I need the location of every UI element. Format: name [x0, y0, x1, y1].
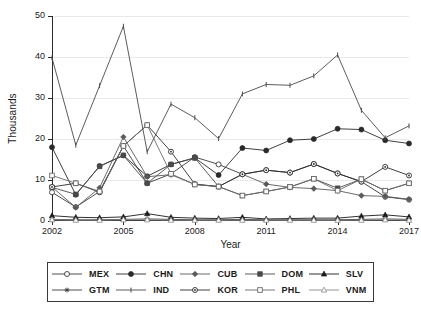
legend-item-cub[interactable]: CUB [178, 268, 242, 280]
plot-inner: 01020304050 200220052008201120142017 [52, 16, 409, 221]
y-tick-label: 50 [35, 11, 45, 20]
data-point-dot-circle [193, 288, 198, 293]
legend-label: KOR [217, 286, 238, 295]
data-point-open-square [121, 144, 126, 149]
x-tick-label: 2008 [185, 227, 205, 236]
data-point-open-square [335, 188, 340, 193]
data-point-open-circle [65, 272, 70, 277]
data-point-open-square [264, 189, 269, 194]
data-point-filled-square [193, 156, 198, 161]
legend-marker-tick-icon [114, 284, 148, 296]
data-point-dot-circle [383, 164, 388, 169]
data-point-filled-circle [335, 126, 340, 131]
legend-item-phl[interactable]: PHL [243, 284, 307, 296]
data-point-star [65, 288, 70, 293]
data-point-filled-circle [240, 146, 245, 151]
data-point-open-square [97, 189, 102, 194]
data-point-open-square [359, 177, 364, 182]
chart-legend: MEXCHNCUBDOMSLVGTMINDKORPHLVNM [47, 262, 374, 302]
legend-marker-filled-triangle-icon [307, 268, 341, 280]
y-axis-label: Thousands [6, 16, 18, 221]
data-point-filled-square [257, 272, 262, 277]
plot-area: 01020304050 200220052008201120142017 [52, 16, 409, 221]
legend-item-kor[interactable]: KOR [178, 284, 242, 296]
data-point-filled-square [121, 153, 126, 158]
legend-marker-open-square-icon [243, 284, 277, 296]
data-point-open-square [407, 181, 412, 186]
data-point-filled-circle [264, 148, 269, 153]
data-point-open-circle [50, 190, 55, 195]
legend-row: MEXCHNCUBDOMSLV [50, 266, 371, 282]
data-point-filled-circle [129, 272, 134, 277]
legend-label: CUB [217, 270, 237, 279]
legend-label: CHN [153, 270, 173, 279]
y-tick-label: 30 [35, 93, 45, 102]
x-tick-label: 2017 [399, 227, 419, 236]
data-point-open-square [257, 288, 262, 293]
legend-label: SLV [346, 270, 363, 279]
x-tick-label: 2002 [42, 227, 62, 236]
legend-item-mex[interactable]: MEX [50, 268, 114, 280]
legend-item-slv[interactable]: SLV [307, 268, 371, 280]
data-point-open-square [383, 188, 388, 193]
data-point-filled-square [97, 164, 102, 169]
data-point-filled-diamond [311, 186, 317, 192]
data-point-open-square [240, 193, 245, 198]
legend-item-chn[interactable]: CHN [114, 268, 178, 280]
data-point-open-square [50, 173, 55, 178]
data-point-filled-diamond [359, 193, 365, 199]
data-point-filled-square [169, 162, 174, 167]
data-point-filled-triangle [145, 211, 150, 216]
legend-marker-star-icon [50, 284, 84, 296]
legend-label: GTM [89, 286, 110, 295]
data-point-open-square [216, 184, 221, 189]
series-ind [52, 24, 409, 154]
y-tick-label: 20 [35, 134, 45, 143]
data-point-dot-circle [240, 172, 245, 177]
data-point-filled-diamond [263, 181, 269, 187]
y-tick-label: 40 [35, 52, 45, 61]
data-point-filled-circle [216, 173, 221, 178]
data-point-filled-circle [311, 137, 316, 142]
legend-marker-dot-circle-icon [178, 284, 212, 296]
data-point-filled-circle [407, 141, 412, 146]
legend-marker-filled-circle-icon [114, 268, 148, 280]
legend-item-gtm[interactable]: GTM [50, 284, 114, 296]
legend-marker-filled-diamond-icon [178, 268, 212, 280]
legend-label: PHL [282, 286, 301, 295]
data-point-dot-circle [50, 184, 55, 189]
legend-item-dom[interactable]: DOM [243, 268, 307, 280]
data-point-open-square [193, 182, 198, 187]
legend-marker-filled-square-icon [243, 268, 277, 280]
data-point-dot-circle [288, 170, 293, 175]
legend-label: VNM [346, 286, 367, 295]
data-point-open-square [312, 176, 317, 181]
x-tick-label: 2014 [328, 227, 348, 236]
series-cub [49, 134, 412, 210]
legend-marker-open-circle-icon [50, 268, 84, 280]
legend-row: GTMINDKORPHLVNM [50, 282, 371, 298]
data-point-open-square [288, 185, 293, 190]
data-point-open-circle [216, 162, 221, 167]
data-point-filled-circle [50, 145, 55, 150]
legend-label: DOM [282, 270, 304, 279]
x-axis-label: Year [52, 239, 409, 250]
series-chn [50, 126, 412, 197]
data-point-filled-circle [288, 138, 293, 143]
data-point-dot-circle [311, 162, 316, 167]
legend-label: MEX [89, 270, 109, 279]
data-point-filled-diamond [193, 271, 199, 277]
legend-label: IND [153, 286, 169, 295]
data-point-dot-circle [335, 171, 340, 176]
data-point-dot-circle [407, 173, 412, 178]
series-layer [52, 16, 409, 221]
y-tick-label: 10 [35, 175, 45, 184]
data-point-open-square [145, 123, 150, 128]
legend-item-ind[interactable]: IND [114, 284, 178, 296]
series-mex [50, 143, 412, 209]
y-tick-label: 0 [40, 216, 45, 225]
legend-item-vnm[interactable]: VNM [307, 284, 371, 296]
chart-figure: Thousands 01020304050 200220052008201120… [0, 0, 421, 312]
data-point-filled-square [145, 181, 150, 186]
x-tick-label: 2011 [257, 227, 276, 236]
